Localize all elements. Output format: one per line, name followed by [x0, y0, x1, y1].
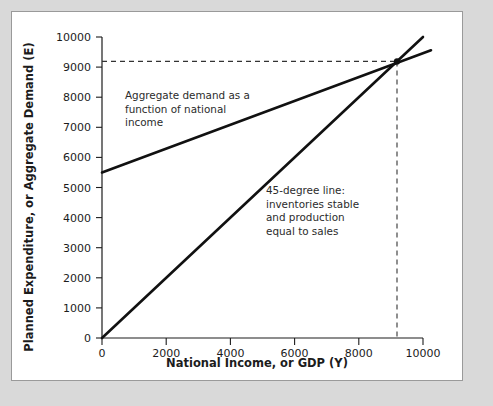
x-tick-label: 10000 [406, 347, 441, 360]
x-tick-label: 8000 [345, 347, 373, 360]
y-tick-label: 6000 [63, 151, 91, 164]
chart-canvas: Planned Expenditure, or Aggregate Demand… [12, 12, 462, 380]
y-tick-label: 2000 [63, 272, 91, 285]
annotation-line: income [125, 116, 163, 128]
y-tick-label: 4000 [63, 212, 91, 225]
forty-five-degree-annotation: 45-degree line: inventories stable and p… [266, 184, 359, 237]
chart-panel: Planned Expenditure, or Aggregate Demand… [11, 11, 463, 381]
y-tick-label: 1000 [63, 302, 91, 315]
forty-five-degree-line [102, 37, 423, 338]
y-axis-title: Planned Expenditure, or Aggregate Demand… [22, 42, 36, 351]
annotation-line: Aggregate demand as a [125, 89, 250, 101]
annotation-line: equal to sales [266, 225, 338, 237]
y-tick-label: 7000 [63, 121, 91, 134]
y-tick-label: 3000 [63, 242, 91, 255]
y-tick-label: 0 [84, 332, 91, 345]
aggregate-demand-annotation: Aggregate demand as a function of nation… [125, 89, 250, 128]
equilibrium-point-marker [394, 58, 400, 64]
x-tick-label: 4000 [216, 347, 244, 360]
x-axis-title: National Income, or GDP (Y) [166, 356, 348, 370]
x-axis-ticks [102, 338, 423, 345]
x-tick-label: 6000 [281, 347, 309, 360]
x-tick-label: 2000 [152, 347, 180, 360]
annotation-line: and production [266, 211, 345, 223]
annotation-line: 45-degree line: [266, 184, 345, 196]
figure-root: Planned Expenditure, or Aggregate Demand… [0, 0, 493, 406]
y-axis-ticks [96, 37, 102, 338]
annotation-line: function of national [125, 103, 226, 115]
annotation-line: inventories stable [266, 198, 359, 210]
x-tick-label: 0 [99, 347, 106, 360]
y-tick-label: 10000 [56, 31, 91, 44]
y-tick-label: 8000 [63, 91, 91, 104]
y-tick-label: 5000 [63, 182, 91, 195]
y-axis-tick-labels: 10000 9000 8000 7000 6000 5000 4000 3000… [56, 31, 91, 345]
y-tick-label: 9000 [63, 61, 91, 74]
